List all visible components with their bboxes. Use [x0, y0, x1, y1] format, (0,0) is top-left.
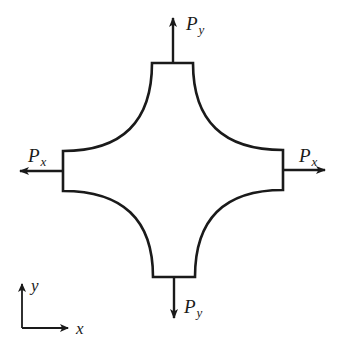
- load-label-right: Px: [299, 146, 317, 165]
- load-symbol: P: [186, 13, 198, 34]
- load-subscript: y: [197, 305, 203, 320]
- load-label-top: Py: [186, 14, 204, 33]
- load-subscript: y: [199, 22, 205, 37]
- specimen-outline: [63, 63, 283, 277]
- load-symbol: P: [299, 145, 311, 166]
- load-symbol: P: [28, 145, 40, 166]
- load-subscript: x: [41, 154, 47, 169]
- axis-x-label: x: [76, 320, 84, 337]
- load-label-bottom: Py: [184, 297, 202, 316]
- load-symbol: P: [184, 296, 196, 317]
- load-subscript: x: [312, 154, 318, 169]
- axis-y-label: y: [31, 277, 39, 294]
- load-label-left: Px: [28, 146, 46, 165]
- diagram-canvas: [0, 0, 341, 345]
